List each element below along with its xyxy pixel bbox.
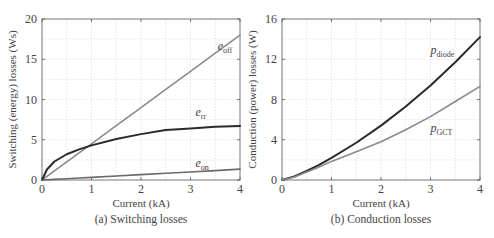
svg-text:2: 2 <box>378 182 384 196</box>
svg-text:4: 4 <box>271 133 277 147</box>
svg-text:1: 1 <box>329 182 335 196</box>
conduction-losses-chart: 012340481216Current (kA)Conduction (powe… <box>246 12 483 226</box>
y-axis-label: Switching (energy) losses (Ws) <box>6 30 19 169</box>
svg-text:0: 0 <box>39 182 45 196</box>
curve-label-e-on: eon <box>195 156 208 172</box>
y-axis-label: Conduction (power) losses (W) <box>246 30 259 169</box>
figure-caption: (a) Switching losses <box>95 213 188 226</box>
svg-text:0: 0 <box>279 182 285 196</box>
curve-label-p-diode: pdiode <box>430 43 455 59</box>
svg-text:1: 1 <box>89 182 95 196</box>
svg-text:3: 3 <box>428 182 434 196</box>
svg-text:12: 12 <box>265 52 277 66</box>
svg-text:0: 0 <box>271 173 277 187</box>
x-axis-label: Current (kA) <box>352 197 409 210</box>
svg-text:10: 10 <box>25 93 37 107</box>
curve-label-e-off: eoff <box>218 39 233 55</box>
svg-text:4: 4 <box>237 182 243 196</box>
svg-text:3: 3 <box>188 182 194 196</box>
svg-text:15: 15 <box>25 52 37 66</box>
svg-text:20: 20 <box>25 12 37 26</box>
grid <box>282 19 480 180</box>
svg-text:4: 4 <box>477 182 483 196</box>
figure: 0123405101520Current (kA)Switching (ener… <box>0 0 494 238</box>
switching-losses-chart: 0123405101520Current (kA)Switching (ener… <box>6 12 243 226</box>
svg-text:2: 2 <box>138 182 144 196</box>
svg-text:16: 16 <box>265 12 277 26</box>
figure-caption: (b) Conduction losses <box>331 213 432 226</box>
series-e-rr <box>42 126 240 180</box>
grid <box>42 19 240 180</box>
svg-text:0: 0 <box>31 173 37 187</box>
svg-text:5: 5 <box>31 133 37 147</box>
x-axis-label: Current (kA) <box>112 197 169 210</box>
svg-text:8: 8 <box>271 93 277 107</box>
curve-label-e-rr: err <box>195 105 206 121</box>
curve-label-p-gct: pGCT <box>430 121 453 137</box>
